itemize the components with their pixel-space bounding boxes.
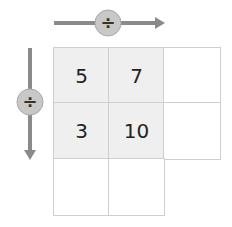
arrow-down-icon <box>24 150 36 160</box>
grid-cell-r3c1 <box>53 158 110 216</box>
divide-icon: ÷ <box>22 91 37 112</box>
divide-icon: ÷ <box>100 12 115 33</box>
grid-cell-r1c2: 7 <box>108 47 165 104</box>
grid-cell-r1c3 <box>163 47 221 104</box>
number-grid: 5 7 3 10 <box>53 47 221 216</box>
grid-cell-r2c2: 10 <box>108 102 165 160</box>
grid-cell-r2c3 <box>163 102 221 160</box>
grid-cell-r2c1: 3 <box>53 102 110 160</box>
grid-cell-r3c2 <box>108 158 165 216</box>
grid-cell-r1c1: 5 <box>53 47 110 104</box>
arrow-right-icon <box>155 17 165 29</box>
horizontal-divide-arrow: ÷ <box>54 10 165 36</box>
vertical-divide-arrow: ÷ <box>17 48 43 160</box>
